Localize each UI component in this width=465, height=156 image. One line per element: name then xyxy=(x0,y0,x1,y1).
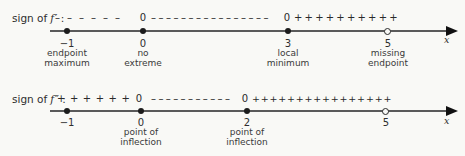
number-line xyxy=(50,110,450,112)
point-caption: local minimum xyxy=(256,49,320,68)
point-caption: no extreme xyxy=(111,49,175,68)
caption-line: inflection xyxy=(215,138,279,148)
sign-chart-figure: sign off′ : –––––– 0 –––––––––––––––– 0 … xyxy=(0,0,465,156)
caption-line: extreme xyxy=(111,59,175,69)
point-caption: missing endpoint xyxy=(356,49,420,68)
sign-segment-negative: ––––––––––– xyxy=(151,93,232,104)
point-dot xyxy=(64,108,70,114)
point-caption: point of inflection xyxy=(215,128,279,147)
sign-zero: 0 xyxy=(240,93,250,104)
sign-segment-positive: ++++++++++++++++ xyxy=(252,93,392,104)
sign-segment-positive: ++++++++++ xyxy=(294,12,400,23)
sign-label-prefix: sign of xyxy=(12,93,47,105)
caption-line: maximum xyxy=(35,59,99,69)
point-dot xyxy=(285,28,291,34)
caption-line: endpoint xyxy=(356,59,420,69)
point-dot xyxy=(140,28,146,34)
f-double-prime-symbol: f xyxy=(50,93,54,105)
point-caption: point of inflection xyxy=(109,128,173,147)
sign-segment-negative: –––––––––––––––– xyxy=(151,12,271,23)
point-dot xyxy=(244,108,250,114)
tick-value: −1 xyxy=(52,117,82,128)
sign-segment-positive: ++++++ xyxy=(57,93,134,104)
axis-x-label: x xyxy=(444,115,449,126)
f-prime-symbol: f xyxy=(50,12,54,24)
point-dot xyxy=(138,108,144,114)
caption-line: minimum xyxy=(256,59,320,69)
sign-zero: 0 xyxy=(282,12,292,23)
axis-x-label: x xyxy=(444,34,449,45)
point-caption: endpoint maximum xyxy=(35,49,99,68)
sign-zero: 0 xyxy=(134,93,144,104)
tick-value: 5 xyxy=(371,117,401,128)
sign-zero: 0 xyxy=(138,12,148,23)
sign-label-prefix: sign of xyxy=(12,12,47,24)
sign-segment-negative: –––––– xyxy=(55,12,127,23)
point-open-dot xyxy=(384,28,391,35)
point-open-dot xyxy=(382,108,389,115)
caption-line: inflection xyxy=(109,138,173,148)
point-dot xyxy=(64,28,70,34)
